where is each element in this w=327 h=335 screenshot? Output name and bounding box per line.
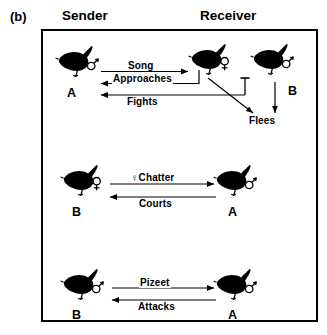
label-song: Song <box>127 60 154 71</box>
panel-label: (b) <box>10 9 27 24</box>
column-header-receiver: Receiver <box>200 8 256 23</box>
bird-label-row3-receiver: A <box>228 308 237 322</box>
bird-label-row2-receiver: A <box>228 205 237 219</box>
label-pizeet: Pizeet <box>139 277 171 288</box>
label-chatter: ♀Chatter <box>130 172 175 183</box>
chatter-sex-prefix: ♀ <box>131 172 139 183</box>
label-flees: Flees <box>248 115 276 126</box>
label-fights: Fights <box>126 96 159 107</box>
figure-panel-b: (b) Sender Receiver <box>0 0 327 335</box>
column-header-sender: Sender <box>62 8 108 23</box>
bird-label-row1-sender: A <box>67 86 76 100</box>
bird-label-row1-receiver-b: B <box>288 84 297 98</box>
label-approaches: Approaches <box>112 73 173 84</box>
diagram-frame <box>41 29 318 322</box>
bird-label-row2-sender: B <box>72 205 81 219</box>
label-courts: Courts <box>138 198 173 209</box>
bird-label-row3-sender: B <box>72 308 81 322</box>
label-attacks: Attacks <box>137 301 176 312</box>
chatter-text: Chatter <box>139 172 175 183</box>
